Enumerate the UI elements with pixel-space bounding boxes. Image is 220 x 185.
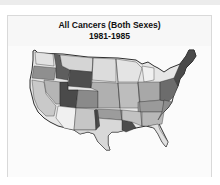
map-panel: All Cancers (Both Sexes) 1981-1985 <box>7 15 212 177</box>
region-michigan <box>142 66 154 82</box>
top-strip <box>0 0 220 5</box>
region-iowa-missouri <box>118 83 140 108</box>
region-illinois-indiana-ohio <box>138 82 160 102</box>
region-alabama-georgia <box>142 112 164 126</box>
region-oregon <box>32 66 56 80</box>
region-colorado <box>76 90 98 108</box>
map-subtitle: 1981-1985 <box>8 31 211 42</box>
map-title: All Cancers (Both Sexes) <box>8 20 211 31</box>
region-dakotas <box>92 58 116 82</box>
region-kentucky-tennessee <box>138 100 164 112</box>
region-mid-atlantic <box>160 78 178 102</box>
title-band: All Cancers (Both Sexes) 1981-1985 <box>8 16 211 47</box>
region-new-mexico <box>74 108 96 130</box>
region-washington <box>35 52 54 66</box>
us-map-graphic <box>8 46 213 177</box>
us-choropleth-map <box>8 46 211 177</box>
region-wyoming <box>68 70 92 88</box>
